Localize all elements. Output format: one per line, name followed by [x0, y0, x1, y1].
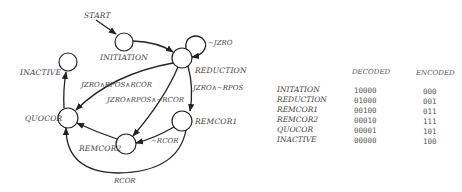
label-reduction: REDUCTION: [194, 66, 247, 75]
start-label: START: [84, 11, 111, 20]
edge-initiation-reduction: [133, 41, 173, 52]
label-jzro-not-rpos: JZRO∧~RPOS: [191, 84, 243, 92]
label-initiation: INITIATION: [99, 53, 148, 62]
label-rcor: RCOR: [113, 177, 136, 185]
label-jzro-rpos-not-rcor: JZRO∧RPOS∧~RCOR: [105, 96, 185, 104]
label-remcor1: REMCOR1: [194, 117, 238, 126]
edge-reduction-remcor1: [188, 66, 192, 111]
state-remcor1: [172, 111, 192, 131]
state-diagram: START INITIATION REDUCTION INACTIVE QUOC…: [0, 0, 462, 192]
label-jzro-rpos-rcor: JZRO∧RPOS∧RCOR: [79, 81, 153, 89]
label-quocor: QUOCOR: [25, 114, 63, 123]
label-not-jzro: ~JZRO: [208, 39, 233, 47]
edge-remcor2-quocor: [77, 123, 117, 139]
edge-start-initiation: [96, 20, 116, 34]
label-remcor2: REMCOR2: [78, 144, 122, 153]
label-not-rcor: ~RCOR: [151, 137, 179, 145]
state-inactive: [59, 53, 77, 71]
state-reduction: [172, 48, 192, 68]
label-inactive: INACTIVE: [19, 68, 61, 77]
edge-quocor-inactive: [64, 72, 66, 108]
state-initiation: [115, 33, 133, 51]
